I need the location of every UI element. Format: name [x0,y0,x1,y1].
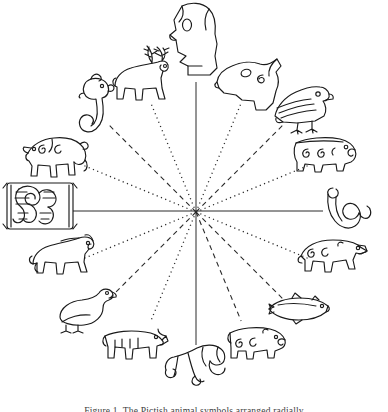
figure-caption: Figure 1. The Pictish animal symbols arr… [0,406,388,412]
spoke-nw [108,124,196,212]
animal-ram-head: Ram / deer head [215,59,281,110]
spoke-se [196,212,284,300]
spoke-wsw [83,212,196,259]
animal-layer: Horse head Ram / deer head Eagle / bird … [3,3,371,385]
spoke-ene [196,165,309,212]
spoke-sw [108,212,196,300]
animal-interlace-serpent: Interlaced serpent [3,183,77,229]
animal-lion: Lion / feline [23,138,88,177]
animal-wolf: Wolf / hound [298,240,367,272]
animal-goose: Goose / swan [60,289,116,333]
animal-beast: Pictish beast [165,345,225,385]
spoke-ese [196,212,309,259]
spoke-wnw [83,165,196,212]
animal-bull: Bull / boar [228,328,285,359]
radial-animal-wheel: Horse head Ram / deer head Eagle / bird … [0,0,388,412]
animal-stag: Stag / reindeer [113,46,169,100]
animal-dog-serpent: Dog-headed serpent [79,74,114,132]
figure-root: Horse head Ram / deer head Eagle / bird … [0,0,388,412]
spoke-ne [196,124,284,212]
animal-eagle: Eagle / bird of prey [275,87,333,134]
animal-horse: Horse [29,235,93,274]
animal-boar: Boar / bear [294,138,356,172]
animal-cow: Cow / ox [103,329,168,359]
animal-horse-head: Horse head [170,3,217,75]
animal-serpent: Serpent [328,188,371,228]
animal-salmon: Salmon / fish [269,293,329,324]
